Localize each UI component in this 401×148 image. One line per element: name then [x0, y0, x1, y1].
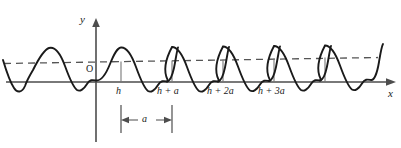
- plot-canvas: [0, 0, 401, 148]
- periodic-function-figure: y x O h h + a h + 2a h + 3a a: [0, 0, 401, 148]
- tick-label-h-plus-3a: h + 3a: [258, 86, 285, 96]
- tick-label-h: h: [116, 86, 121, 96]
- dashed-reference-line: [4, 58, 378, 64]
- y-axis-label: y: [80, 14, 85, 25]
- x-axis-label: x: [388, 88, 393, 99]
- tick-label-h-plus-a: h + a: [157, 86, 179, 96]
- curve-rising-limbs: [167, 46, 331, 82]
- origin-label: O: [86, 64, 93, 74]
- period-dimension-label: a: [142, 114, 147, 124]
- x-axis: [6, 78, 396, 86]
- tick-label-h-plus-2a: h + 2a: [207, 86, 234, 96]
